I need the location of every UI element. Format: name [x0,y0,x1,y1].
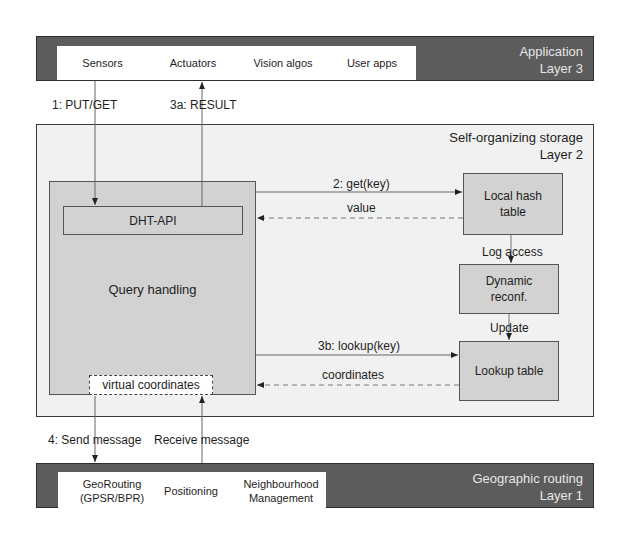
lookup-key-label: 3b: lookup(key) [318,339,400,353]
result-label: 3a: RESULT [170,98,236,112]
send-message-label: 4: Send message [48,433,141,447]
get-key-label: 2: get(key) [333,177,390,191]
coordinates-label: coordinates [322,368,384,382]
update-label: Update [490,321,529,335]
log-access-label: Log access [482,245,543,259]
put-get-label: 1: PUT/GET [52,98,117,112]
connector-arrows [0,0,629,539]
receive-message-label: Receive message [154,433,249,447]
value-label: value [347,201,376,215]
